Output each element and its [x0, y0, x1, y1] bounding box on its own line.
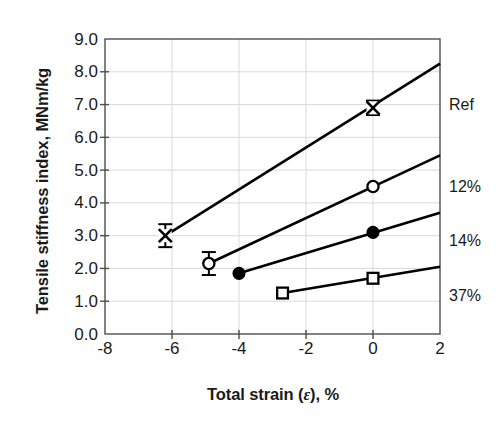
marker-filled-circle [234, 268, 245, 279]
series-37pct [277, 267, 440, 299]
y-tick-label: 3.0 [52, 227, 98, 244]
x-tick-label: 0 [353, 340, 393, 357]
marker-filled-circle [368, 227, 379, 238]
series-label-37pct: 37% [449, 288, 481, 304]
y-tick-label: 8.0 [52, 63, 98, 80]
y-tick-label: 6.0 [52, 129, 98, 146]
trend-line [239, 213, 440, 274]
marker-open-square [368, 273, 379, 284]
x-axis-title: Total strain (ε), % [105, 385, 441, 405]
chart-figure: Tensile stiffness index, MNm/kg 0.01.02.… [0, 0, 501, 430]
x-tick-label: -6 [152, 340, 192, 357]
y-tick-label: 7.0 [52, 96, 98, 113]
epsilon-symbol: ε [303, 385, 310, 404]
marker-open-circle [367, 181, 378, 192]
marker-open-circle [203, 258, 214, 269]
series-Ref [158, 64, 440, 248]
y-tick-label-group: 0.01.02.03.04.05.06.07.08.09.0 [48, 0, 98, 430]
series-label-Ref: Ref [449, 97, 474, 113]
series-label-14pct: 14% [449, 233, 481, 249]
x-tick-label: -2 [286, 340, 326, 357]
y-tick-label: 5.0 [52, 162, 98, 179]
y-tick-label: 4.0 [52, 194, 98, 211]
trend-line [165, 64, 440, 236]
plot-frame [105, 39, 440, 334]
series-label-12pct: 12% [449, 179, 481, 195]
series-12pct [202, 155, 440, 275]
x-tick-label: -8 [85, 340, 125, 357]
x-tick-label: -4 [219, 340, 259, 357]
marker-open-square [277, 288, 288, 299]
y-tick-label: 9.0 [52, 31, 98, 48]
y-tick-label: 1.0 [52, 293, 98, 310]
y-tick-label: 2.0 [52, 260, 98, 277]
x-tick-label: 2 [420, 340, 460, 357]
